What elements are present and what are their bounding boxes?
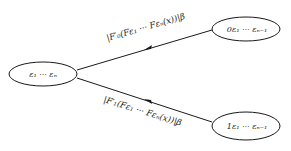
arrow-head-icon xyxy=(144,45,152,50)
edge-child0-root xyxy=(77,30,212,70)
node-child1-label: 1ε₁ ··· εₙ₋₁ xyxy=(227,122,267,131)
node-child0-label: 0ε₁ ··· εₙ₋₁ xyxy=(227,25,267,34)
node-root-label: ε₁ ··· εₙ xyxy=(29,70,57,79)
